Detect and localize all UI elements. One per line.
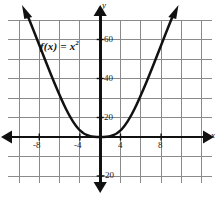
function-equation-base: f(x) = x xyxy=(40,40,75,52)
y-tick-label-20: 20 xyxy=(104,113,113,122)
function-equation-label: f(x) = x2 xyxy=(40,40,79,52)
function-equation-exponent: 2 xyxy=(75,39,79,47)
x-axis-label: x xyxy=(211,131,215,140)
y-axis-label: y xyxy=(102,1,106,10)
y-tick-label-40: 40 xyxy=(104,74,113,83)
y-tick-label-60: 60 xyxy=(104,35,113,44)
x-tick-label-minus-8: -8 xyxy=(33,141,41,150)
x-tick-label-8: 8 xyxy=(158,141,163,150)
x-axis-arrow-left xyxy=(1,130,12,143)
parabola-arrow-left xyxy=(22,5,32,19)
x-tick-label-4: 4 xyxy=(118,141,123,150)
x-tick-label-minus-4: -4 xyxy=(74,141,82,150)
coordinate-plane-figure: 60 40 20 -20 -8 -4 4 8 y x f(x) = x2 xyxy=(0,0,219,200)
y-axis-arrow-down xyxy=(94,182,107,193)
parabola-arrow-right xyxy=(168,5,178,19)
y-tick-label-minus-20: -20 xyxy=(102,171,114,180)
